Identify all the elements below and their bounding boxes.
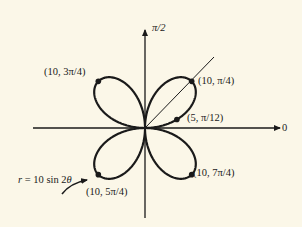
label-point-10-pi4: (10, π/4): [198, 76, 234, 87]
point-marker: [96, 79, 102, 85]
label-point-10-3pi4: (10, 3π/4): [44, 67, 85, 78]
label-point-5-pi12: (5, π/12): [187, 113, 223, 124]
label-zero: 0: [282, 123, 287, 134]
point-marker: [96, 172, 102, 178]
label-equation: r = 10 sin 2θ: [18, 175, 72, 186]
label-pi-over-2: π/2: [152, 23, 165, 34]
point-marker: [189, 79, 195, 85]
label-point-10-7pi4: (10, 7π/4): [193, 168, 234, 179]
point-marker: [174, 117, 180, 123]
label-point-10-5pi4: (10, 5π/4): [86, 187, 127, 198]
polar-plot: [0, 0, 302, 227]
